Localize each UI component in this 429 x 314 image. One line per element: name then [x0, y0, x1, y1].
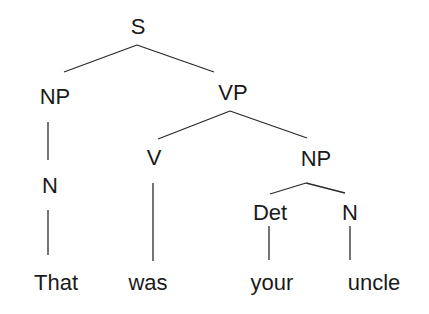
- word-was: was: [127, 270, 167, 295]
- node-v: V: [147, 145, 162, 170]
- edge-s-vp: [137, 45, 214, 72]
- node-n-subject: N: [42, 173, 58, 198]
- node-vp: VP: [218, 80, 247, 105]
- edge-s-np: [64, 45, 137, 72]
- word-uncle: uncle: [348, 270, 401, 295]
- edge-vp-np: [230, 111, 307, 138]
- tree-words: That was your uncle: [34, 270, 400, 295]
- word-that: That: [34, 270, 78, 295]
- edge-np-n-object: [306, 183, 345, 193]
- node-det: Det: [253, 200, 287, 225]
- node-np-subject: NP: [40, 84, 71, 109]
- edge-vp-v: [158, 111, 230, 139]
- node-np-object: NP: [301, 146, 332, 171]
- word-your: your: [251, 270, 294, 295]
- syntax-tree: S NP VP N V NP Det N That was your uncle: [0, 0, 429, 314]
- tree-nodes: S NP VP N V NP Det N: [40, 14, 358, 225]
- node-n-object: N: [342, 200, 358, 225]
- edge-np-det: [270, 183, 306, 194]
- node-s: S: [131, 14, 146, 39]
